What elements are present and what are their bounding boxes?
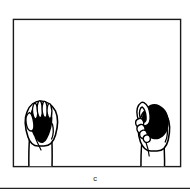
figure-panel: c [0, 0, 190, 195]
right-hand-finger-4 [143, 135, 150, 143]
left-hand-group [25, 101, 57, 167]
left-hand-finger-4 [47, 104, 52, 119]
panel-caption-label: c [93, 174, 97, 183]
figure-illustration: c [0, 0, 190, 195]
